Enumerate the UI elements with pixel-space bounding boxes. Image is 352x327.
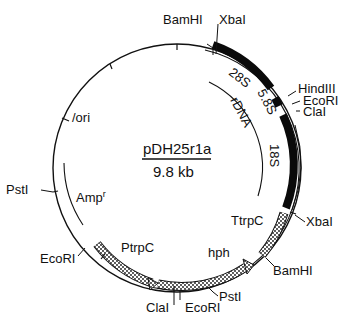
feature-label-18s: 18S [267,144,282,167]
block-18s [283,115,294,208]
site-label-xbai-right: XbaI [306,214,333,229]
tick-pstI-left [53,191,58,192]
plasmid-name: pDH25r1a [143,140,212,157]
feature-label-58s: 5.8S [254,86,280,117]
tick-upper-left [110,64,112,69]
site-label-bamhi-bottom: BamHI [273,263,313,278]
site-label-bamhi-top: BamHI [163,12,203,27]
feature-label-ttrpc: TtrpC [231,213,264,228]
plasmid-map: BamHI XbaI HindIII EcoRI ClaI XbaI BamHI… [0,0,352,327]
site-label-ecori-bottom: EcoRI [185,300,220,315]
leader-psti-left [41,190,53,192]
leader-psti-bottom [208,287,218,296]
feature-label-ptrpc: PtrpC [121,240,154,255]
plasmid-size: 9.8 kb [153,163,194,180]
leader-hindiii [288,91,296,96]
feature-label-hph: hph [208,245,230,260]
plasmid-map-svg: BamHI XbaI HindIII EcoRI ClaI XbaI BamHI… [0,0,352,327]
site-label-clai-right: ClaI [303,104,326,119]
leader-ecori-left [78,248,85,256]
feature-label-ori: /ori [72,110,90,125]
site-label-xbai-top: XbaI [219,12,246,27]
leader-xbai-right [295,215,305,222]
site-label-ecori-left: EcoRI [40,251,75,266]
site-label-psti-left: PstI [6,182,28,197]
feature-label-ampr: Ampr [76,189,106,205]
feature-label-rdna: rDNA [227,94,255,129]
site-label-clai-bottom: ClaI [146,300,169,315]
site-label-psti-bottom: PstI [219,289,241,304]
leader-ecori-right [292,101,300,104]
